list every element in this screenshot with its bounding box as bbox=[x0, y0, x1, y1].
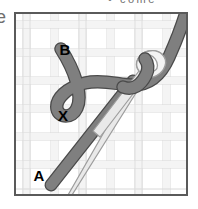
cropped-top-caption: • come bbox=[108, 0, 198, 7]
stitch-illustration: B X A bbox=[15, 13, 187, 195]
cropped-left-text-fragment: e bbox=[0, 6, 8, 28]
label-point-a: A bbox=[34, 167, 45, 184]
illustration-panel: B X A bbox=[14, 12, 188, 196]
diagram-root: e • come bbox=[0, 0, 198, 209]
label-point-b: B bbox=[60, 41, 71, 58]
label-point-x: X bbox=[58, 107, 68, 124]
